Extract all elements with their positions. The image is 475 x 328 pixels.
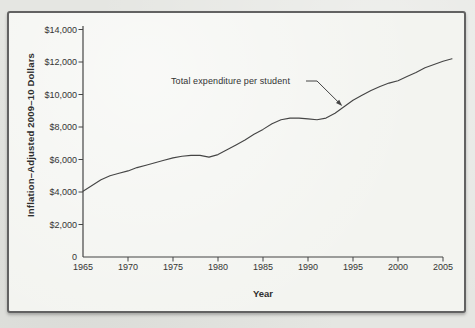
x-tick-label: 1985: [253, 262, 273, 272]
x-tick-label: 1995: [343, 262, 363, 272]
y-tick-label: 0: [72, 252, 77, 262]
y-axis-title: Inflation–Adjusted 2009–10 Dollars: [25, 53, 36, 217]
x-tick-label: 1990: [298, 262, 318, 272]
x-axis-title: Year: [83, 288, 443, 299]
x-tick-label: 1970: [118, 262, 138, 272]
y-tick-label: $2,000: [49, 220, 77, 230]
series-annotation-label: Total expenditure per student: [171, 75, 290, 88]
y-tick-label: $4,000: [49, 187, 77, 197]
y-tick-label: $10,000: [44, 90, 77, 100]
x-tick-label: 2000: [388, 262, 408, 272]
x-tick-label: 1965: [73, 262, 93, 272]
y-tick-label: $6,000: [49, 155, 77, 165]
y-tick-label: $12,000: [44, 57, 77, 67]
x-tick-label: 2005: [433, 262, 453, 272]
y-tick-label: $14,000: [44, 25, 77, 35]
expenditure-line-chart: 0$2,000$4,000$6,000$8,000$10,000$12,000$…: [0, 0, 475, 328]
x-tick-label: 1980: [208, 262, 228, 272]
scanned-figure-page: 0$2,000$4,000$6,000$8,000$10,000$12,000$…: [0, 0, 475, 328]
annotation-leader-line: [306, 81, 339, 102]
x-tick-label: 1975: [163, 262, 183, 272]
y-tick-label: $8,000: [49, 122, 77, 132]
